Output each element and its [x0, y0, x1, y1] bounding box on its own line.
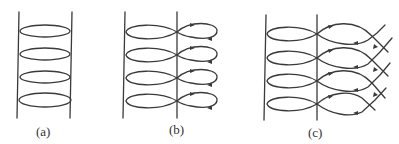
lens-row-1: [267, 24, 388, 52]
panel-c: (c): [264, 15, 392, 140]
panel-label-b: (b): [169, 122, 184, 137]
arrow-icon: [373, 92, 378, 97]
panel-b: (b): [123, 12, 217, 137]
figure-eight-row-4: [126, 92, 217, 110]
loop-1: [20, 25, 70, 37]
boundary-line-left: [123, 12, 125, 118]
loop-3: [20, 71, 70, 83]
lens-row-4: [267, 88, 386, 115]
diagram-canvas: (a) (b): [0, 0, 399, 144]
boundary-line-left: [17, 12, 19, 118]
panel-label-c: (c): [308, 125, 322, 140]
figure-eight-row-2: [126, 46, 217, 64]
arrow-icon: [373, 67, 378, 72]
panel-a: (a): [17, 12, 72, 139]
boundary-line-left: [264, 15, 266, 120]
figure-eight-row-3: [126, 69, 217, 87]
loop-2: [20, 48, 70, 60]
figure-eight-row-1: [126, 23, 217, 41]
lens-row-2: [267, 38, 392, 76]
lens-row-3: [267, 63, 390, 98]
arrow-icon: [373, 44, 378, 49]
loop-4: [19, 93, 71, 107]
panel-label-a: (a): [36, 124, 50, 139]
